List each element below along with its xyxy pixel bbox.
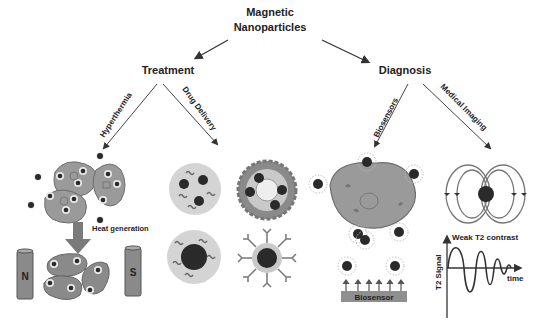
biosensors-label: Biosensors bbox=[372, 96, 401, 139]
weak-t2-contrast-label: Weak T2 contrast bbox=[452, 233, 518, 242]
carrier-polymer-multi bbox=[169, 163, 221, 215]
heat-generation-label: Heat generation bbox=[92, 224, 149, 233]
magnetic-nanoparticles-diagram: Magnetic Nanoparticles Treatment Diagnos… bbox=[0, 0, 540, 328]
root-title-line2: Nanoparticles bbox=[234, 21, 307, 33]
t2-signal-plot: Weak T2 contrast time T2 Signal bbox=[434, 233, 524, 318]
svg-text:N: N bbox=[21, 271, 28, 282]
biosensor-label: Biosensor bbox=[354, 293, 393, 302]
treatment-label: Treatment bbox=[142, 64, 195, 76]
hyperthermia-label: Hyperthermia bbox=[98, 90, 134, 139]
carrier-liposome bbox=[238, 161, 296, 219]
arrow-to-diagnosis bbox=[322, 40, 368, 62]
arrow-to-treatment bbox=[196, 40, 228, 58]
medical-imaging-label: Medical Imaging bbox=[439, 82, 489, 132]
t2-signal-axis-label: T2 Signal bbox=[434, 254, 443, 290]
biosensor-surface: Biosensor bbox=[338, 257, 407, 302]
heat-down-arrow bbox=[65, 222, 91, 254]
biosensor-target-cell bbox=[330, 163, 415, 229]
svg-text:S: S bbox=[130, 267, 137, 278]
carrier-dendrimer bbox=[238, 229, 296, 287]
magnet-north: N bbox=[17, 249, 33, 299]
magnetic-field-lines bbox=[444, 165, 527, 223]
diagnosis-label: Diagnosis bbox=[379, 64, 432, 76]
magnet-south: S bbox=[125, 246, 141, 296]
hyperthermia-cells-heated bbox=[44, 254, 110, 300]
root-title-line1: Magnetic bbox=[246, 6, 294, 18]
drug-delivery-label: Drug Delivery bbox=[180, 85, 218, 133]
hyperthermia-cells-top bbox=[45, 162, 125, 223]
t2-decay-curve bbox=[448, 248, 511, 292]
time-axis-label: time bbox=[507, 274, 524, 283]
carrier-core-shell bbox=[167, 230, 221, 284]
